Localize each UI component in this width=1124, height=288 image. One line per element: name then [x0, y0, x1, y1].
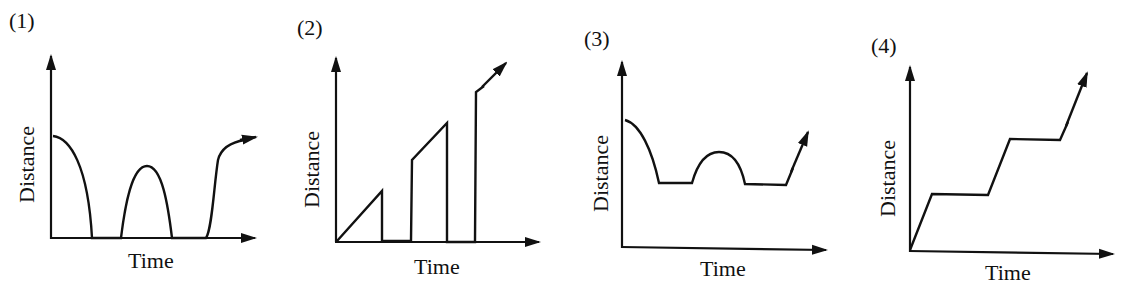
panel-1-graph	[50, 56, 256, 239]
panel-3-x-axis	[621, 247, 826, 250]
panel-4-label: (4)	[871, 33, 897, 59]
panel-2-graph	[335, 58, 539, 242]
panel-3-x-axis-label: Time	[700, 256, 746, 282]
panel-3-label: (3)	[584, 26, 610, 52]
panel-2-x-axis-label: Time	[414, 254, 460, 280]
panel-1-curve	[53, 136, 245, 238]
panel-4-graph	[909, 67, 1113, 254]
panel-2-curve	[337, 86, 484, 242]
panel-2-curve-arrow	[482, 63, 506, 87]
panel-4-y-axis-label: Distance	[875, 140, 901, 217]
panel-1-curve-arrow	[240, 137, 256, 140]
panel-3-curve	[625, 120, 793, 185]
panel-3-graph	[621, 62, 826, 250]
panel-4-curve-arrow	[1066, 73, 1087, 126]
panel-2-label: (2)	[297, 15, 323, 41]
panel-3-curve-arrow	[791, 132, 808, 172]
panel-1-x-axis-label: Time	[128, 248, 174, 274]
panel-4-x-axis-label: Time	[985, 260, 1031, 286]
figure-canvas	[0, 0, 1124, 288]
panel-1-label: (1)	[9, 8, 35, 34]
panel-1-y-axis-label: Distance	[14, 126, 40, 203]
panel-3-y-axis-label: Distance	[588, 135, 614, 212]
panel-2-y-axis-label: Distance	[299, 131, 325, 208]
panel-4-curve	[910, 122, 1068, 250]
panel-4-x-axis	[909, 251, 1113, 254]
